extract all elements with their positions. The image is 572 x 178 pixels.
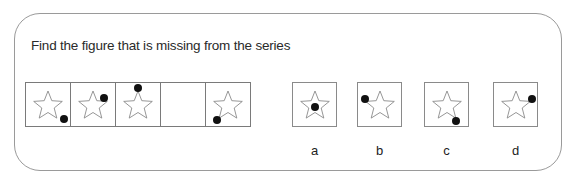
star-with-dot-icon <box>358 83 401 126</box>
figure-series <box>25 82 251 127</box>
series-cell-5 <box>206 83 250 126</box>
series-cell-2 <box>71 83 116 126</box>
series-cell-missing <box>161 83 206 126</box>
star-with-dot-icon <box>494 83 537 126</box>
option-b-figure[interactable] <box>357 82 402 127</box>
series-cell-1 <box>26 83 71 126</box>
series-cell-3 <box>116 83 161 126</box>
option-b-label[interactable]: b <box>357 143 402 158</box>
option-a-label[interactable]: a <box>292 143 337 158</box>
star-with-dot-icon <box>116 83 160 126</box>
star-with-dot-icon <box>293 83 336 126</box>
option-c-figure[interactable] <box>424 82 469 127</box>
option-c-label[interactable]: c <box>424 143 469 158</box>
star-with-dot-icon <box>206 83 250 126</box>
star-with-dot-icon <box>425 83 468 126</box>
question-prompt: Find the figure that is missing from the… <box>31 38 290 53</box>
option-d-figure[interactable] <box>493 82 538 127</box>
option-d-label[interactable]: d <box>493 143 538 158</box>
option-a-figure[interactable] <box>292 82 337 127</box>
star-with-dot-icon <box>71 83 115 126</box>
star-with-dot-icon <box>26 83 70 126</box>
